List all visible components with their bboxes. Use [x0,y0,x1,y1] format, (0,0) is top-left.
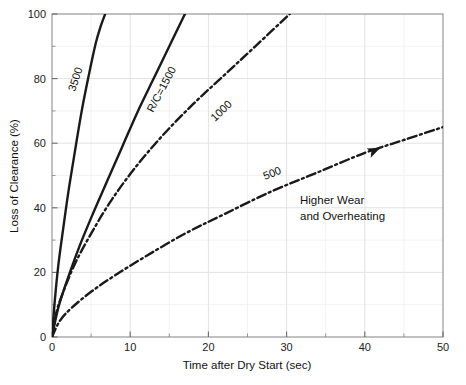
y-tick-label: 0 [40,331,46,343]
x-tick-labels: 0 10 20 30 40 50 [49,341,449,353]
x-axis-title: Time after Dry Start (sec) [183,359,312,371]
y-tick-label: 60 [34,137,46,149]
x-tick-label: 10 [124,341,136,353]
x-tick-label: 20 [202,341,214,353]
chart-figure: 0 10 20 30 40 50 0 20 40 60 80 100 Time … [0,0,466,385]
annotation-line-2: and Overheating [300,210,385,222]
y-tick-label: 80 [34,73,46,85]
x-tick-label: 40 [359,341,371,353]
y-tick-label: 20 [34,266,46,278]
chart-svg: 0 10 20 30 40 50 0 20 40 60 80 100 Time … [0,0,466,385]
y-tick-label: 100 [28,8,46,20]
x-tick-label: 30 [280,341,292,353]
x-tick-label: 0 [49,341,55,353]
y-tick-labels: 0 20 40 60 80 100 [28,8,46,343]
y-tick-label: 40 [34,202,46,214]
y-axis-title: Loss of Clearance (%) [8,119,20,233]
x-tick-label: 50 [437,341,449,353]
annotation-line-1: Higher Wear [300,194,365,206]
